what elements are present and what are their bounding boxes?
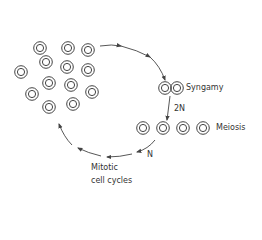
ploidy-2n-label: 2N [174, 105, 185, 113]
cell-icon [86, 86, 99, 99]
cell-icon [62, 42, 75, 55]
cell-icon [82, 64, 95, 77]
cell-cluster [15, 42, 99, 114]
gamete-cell-icon [171, 82, 184, 95]
syngamy-cell-pair [159, 82, 184, 95]
cell-icon [82, 44, 95, 57]
cell-icon [40, 56, 53, 69]
arrow-2n-down [167, 96, 170, 120]
cell-icon [15, 66, 28, 79]
meiotic-product-cell-icon [157, 122, 170, 135]
cell-icon [67, 98, 80, 111]
meiosis-cell-row [137, 122, 210, 135]
meiotic-product-cell-icon [137, 122, 150, 135]
meiosis-label: Meiosis [216, 124, 246, 132]
cell-icon [43, 101, 56, 114]
gamete-cell-icon [159, 82, 172, 95]
cell-icon [34, 42, 47, 55]
meiotic-product-cell-icon [197, 122, 210, 135]
arrow-mitotic-return [59, 124, 155, 157]
ploidy-n-label: N [147, 151, 153, 159]
cell-icon [61, 61, 74, 74]
syngamy-label: Syngamy [186, 84, 223, 92]
cell-icon [43, 77, 56, 90]
cell-icon [26, 88, 39, 101]
meiotic-product-cell-icon [177, 122, 190, 135]
mitotic-cell-cycles-label: Mitotic cell cycles [91, 161, 132, 187]
arrow-cluster-to-syngamy [100, 45, 165, 80]
cell-icon [65, 79, 78, 92]
